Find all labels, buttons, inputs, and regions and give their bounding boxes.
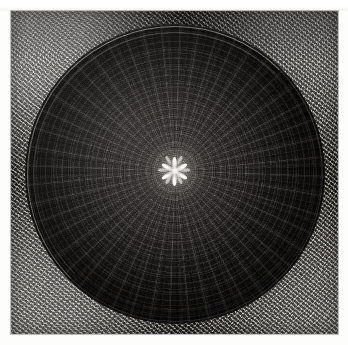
photograph xyxy=(11,11,338,334)
dome-region xyxy=(25,24,325,324)
paper-margin xyxy=(0,0,348,11)
dome-sidelight xyxy=(25,24,325,324)
